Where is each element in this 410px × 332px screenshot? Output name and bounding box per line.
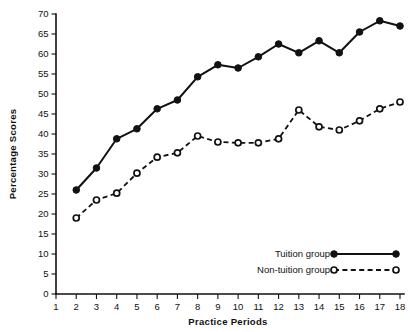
x-tick-label: 9: [215, 301, 220, 312]
x-tick-label: 6: [155, 301, 160, 312]
data-point-marker: [255, 54, 262, 61]
data-point-marker: [174, 150, 180, 156]
data-point-marker: [296, 50, 303, 57]
data-point-marker: [215, 62, 222, 69]
data-point-marker: [376, 18, 383, 25]
data-point-marker: [114, 190, 120, 196]
series-1: [73, 18, 403, 194]
line-chart: 0510152025303540455055606570 12345678910…: [0, 0, 410, 332]
chart-figure: 0510152025303540455055606570 12345678910…: [0, 0, 410, 332]
x-tick-label: 7: [175, 301, 180, 312]
legend-label-2: Non-tuition group: [257, 264, 330, 275]
data-point-marker: [73, 215, 79, 221]
y-tick-label: 10: [38, 248, 49, 259]
y-tick-label: 55: [38, 68, 49, 79]
data-point-marker: [154, 106, 161, 113]
data-point-marker: [397, 23, 404, 30]
y-axis: 0510152025303540455055606570: [38, 8, 56, 299]
data-point-marker: [336, 127, 342, 133]
x-tick-label: 14: [314, 301, 325, 312]
y-axis-title: Percentage Scores: [7, 109, 18, 200]
data-point-marker: [357, 118, 363, 124]
data-point-marker: [397, 99, 403, 105]
data-point-marker: [377, 106, 383, 112]
data-point-marker: [356, 29, 363, 36]
data-point-marker: [255, 140, 261, 146]
legend-sample-marker-1: [331, 251, 338, 258]
x-tick-label: 3: [94, 301, 99, 312]
legend-label-1: Tuition group: [275, 248, 330, 259]
data-point-marker: [215, 139, 221, 145]
x-tick-label: 16: [354, 301, 365, 312]
legend-sample-marker-1: [393, 251, 400, 258]
x-tick-label: 2: [74, 301, 79, 312]
data-point-marker: [154, 154, 160, 160]
y-tick-label: 20: [38, 208, 49, 219]
data-point-marker: [93, 165, 100, 172]
data-point-marker: [296, 107, 302, 113]
series-2: [73, 99, 403, 221]
y-tick-label: 35: [38, 148, 49, 159]
data-point-marker: [113, 136, 120, 143]
x-tick-label: 13: [294, 301, 305, 312]
x-tick-label: 5: [134, 301, 139, 312]
y-tick-label: 50: [38, 88, 49, 99]
y-tick-label: 65: [38, 28, 49, 39]
legend-sample-marker-2: [331, 267, 337, 273]
data-point-marker: [316, 124, 322, 130]
data-series-layer: [73, 18, 403, 222]
x-tick-label: 4: [114, 301, 119, 312]
y-tick-label: 30: [38, 168, 49, 179]
x-tick-label: 1: [53, 301, 58, 312]
data-point-marker: [235, 65, 242, 72]
x-tick-label: 8: [195, 301, 200, 312]
x-tick-label: 17: [374, 301, 385, 312]
data-point-marker: [174, 97, 181, 104]
data-point-marker: [93, 197, 99, 203]
y-tick-label: 70: [38, 8, 49, 19]
data-point-marker: [195, 133, 201, 139]
chart-legend: Tuition groupNon-tuition group: [257, 248, 399, 275]
data-point-marker: [336, 50, 343, 57]
data-point-marker: [194, 74, 201, 81]
y-tick-label: 40: [38, 128, 49, 139]
data-point-marker: [134, 126, 141, 133]
y-tick-label: 5: [43, 268, 48, 279]
y-tick-label: 15: [38, 228, 49, 239]
x-axis-title: Practice Periods: [188, 316, 267, 327]
data-point-marker: [276, 136, 282, 142]
y-tick-label: 0: [43, 288, 48, 299]
x-tick-label: 11: [253, 301, 263, 312]
y-tick-label: 45: [38, 108, 49, 119]
data-point-marker: [316, 38, 323, 45]
x-tick-label: 15: [334, 301, 345, 312]
x-tick-label: 18: [395, 301, 406, 312]
series-line: [76, 21, 400, 190]
data-point-marker: [235, 140, 241, 146]
x-tick-label: 10: [233, 301, 244, 312]
y-tick-label: 25: [38, 188, 49, 199]
legend-sample-marker-2: [393, 267, 399, 273]
x-tick-label: 12: [273, 301, 284, 312]
y-tick-label: 60: [38, 48, 49, 59]
data-point-marker: [134, 170, 140, 176]
series-line: [76, 102, 400, 218]
x-axis: 123456789101112131415161718: [53, 294, 405, 312]
data-point-marker: [275, 41, 282, 48]
data-point-marker: [73, 187, 80, 194]
